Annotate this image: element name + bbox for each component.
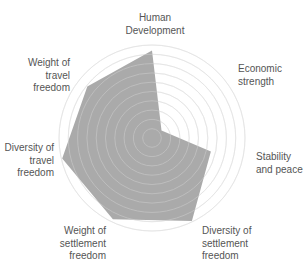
label-line: and peace	[256, 164, 303, 177]
label-line: Weight of	[20, 57, 70, 70]
label-line: freedom	[202, 250, 251, 263]
label-line: strength	[238, 76, 282, 89]
axis-label-stability-peace: Stability and peace	[256, 151, 303, 176]
label-line: travel	[20, 70, 70, 83]
label-line: freedom	[4, 167, 54, 180]
axis-label-human-development: Human Development	[122, 12, 188, 37]
axis-label-diversity-travel: Diversity of travel freedom	[4, 142, 54, 180]
radar-data-area	[62, 51, 211, 221]
axis-label-economic-strength: Economic strength	[238, 63, 282, 88]
label-line: freedom	[56, 250, 106, 263]
label-line: Human	[122, 12, 188, 25]
radar-chart	[0, 0, 305, 263]
axis-label-weight-travel: Weight of travel freedom	[20, 57, 70, 95]
label-line: settlement	[202, 238, 251, 251]
label-line: freedom	[20, 82, 70, 95]
label-line: Economic	[238, 63, 282, 76]
label-line: Stability	[256, 151, 303, 164]
label-line: Diversity of	[202, 225, 251, 238]
label-line: travel	[4, 155, 54, 168]
label-line: Diversity of	[4, 142, 54, 155]
label-line: settlement	[56, 238, 106, 251]
axis-label-weight-settlement: Weight of settlement freedom	[56, 225, 106, 263]
label-line: Development	[122, 25, 188, 38]
axis-label-diversity-settlement: Diversity of settlement freedom	[202, 225, 251, 263]
label-line: Weight of	[56, 225, 106, 238]
